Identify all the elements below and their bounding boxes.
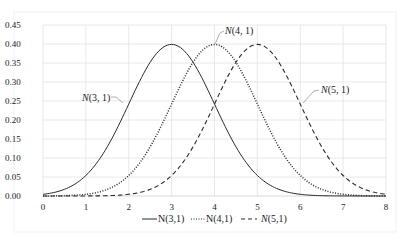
y-tick-label: 0.15 xyxy=(5,134,21,144)
legend-label-n31: N(3,1) xyxy=(158,213,184,225)
annotation-label: N(4, 1) xyxy=(224,25,253,37)
x-tick-label: 6 xyxy=(298,202,303,212)
annotation-n31: N(3, 1) xyxy=(81,92,123,104)
x-axis-ticks: 012345678 xyxy=(41,202,389,212)
legend-label-n51: N(5,1) xyxy=(260,213,287,225)
x-tick-label: 4 xyxy=(212,202,217,212)
y-tick-label: 0.40 xyxy=(5,39,21,49)
annotation-label: N(5, 1) xyxy=(320,84,349,96)
y-tick-label: 0.20 xyxy=(5,115,21,125)
normal-distribution-chart: 0.000.050.100.150.200.250.300.350.400.45… xyxy=(0,0,407,245)
x-tick-label: 1 xyxy=(84,202,89,212)
y-tick-label: 0.30 xyxy=(5,77,21,87)
annotation-label: N(3, 1) xyxy=(81,92,110,104)
x-tick-label: 3 xyxy=(169,202,174,212)
y-axis-ticks: 0.000.050.100.150.200.250.300.350.400.45 xyxy=(5,20,21,201)
legend: N(3,1) N(4,1) N(5,1) xyxy=(142,213,287,225)
annotation-n41: N(4, 1) xyxy=(215,25,253,44)
x-tick-label: 5 xyxy=(255,202,260,212)
x-tick-label: 0 xyxy=(41,202,46,212)
y-tick-label: 0.10 xyxy=(5,153,21,163)
x-tick-label: 2 xyxy=(127,202,132,212)
gridlines xyxy=(43,25,386,196)
x-tick-label: 8 xyxy=(384,202,389,212)
legend-label-n41: N(4,1) xyxy=(206,213,232,225)
leader-line xyxy=(215,31,224,44)
annotation-n51: N(5, 1) xyxy=(303,84,349,103)
y-tick-label: 0.00 xyxy=(5,191,21,201)
y-tick-label: 0.25 xyxy=(5,96,21,106)
x-tick-label: 7 xyxy=(341,202,346,212)
y-tick-label: 0.45 xyxy=(5,20,21,30)
y-tick-label: 0.35 xyxy=(5,58,21,68)
y-tick-label: 0.05 xyxy=(5,172,21,182)
leader-line xyxy=(111,97,123,103)
chart-frame xyxy=(14,12,396,232)
